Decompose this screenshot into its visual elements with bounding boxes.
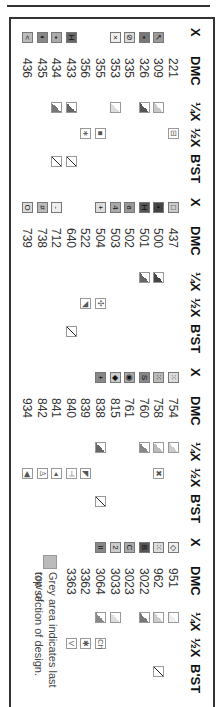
dmc-number: 934 bbox=[20, 398, 33, 418]
dmc-number: 815 bbox=[108, 398, 121, 418]
half-stitch-symbol-icon: ✱ bbox=[80, 638, 91, 649]
half-stitch-symbol-icon: ∗ bbox=[80, 128, 91, 139]
header-quarter: ¼X bbox=[188, 272, 203, 292]
dmc-number: 3023 bbox=[122, 568, 135, 595]
dmc-number: 3033 bbox=[108, 568, 121, 595]
grey-area-swatch bbox=[43, 555, 57, 569]
key-row: ⁙962 bbox=[150, 530, 164, 700]
full-stitch-symbol-icon: # bbox=[37, 202, 48, 213]
dmc-number: 435 bbox=[35, 58, 48, 78]
quarter-stitch-icon bbox=[139, 442, 150, 453]
dmc-number: 841 bbox=[49, 398, 62, 418]
header-quarter: ¼X bbox=[188, 442, 203, 462]
header-x: X bbox=[188, 368, 203, 377]
full-stitch-symbol-icon: □ bbox=[168, 202, 179, 213]
full-stitch-symbol-icon: + bbox=[95, 372, 106, 383]
quarter-stitch-icon bbox=[139, 612, 150, 623]
dmc-number: 3022 bbox=[137, 568, 150, 595]
dmc-number: 839 bbox=[78, 398, 91, 418]
quarter-stitch-icon bbox=[168, 612, 179, 623]
full-stitch-symbol-icon: < bbox=[22, 32, 33, 43]
key-row: II3064Ch bbox=[92, 530, 106, 700]
dmc-number: 951 bbox=[166, 568, 179, 588]
dmc-number: 434 bbox=[49, 58, 62, 78]
header-half: ½X bbox=[188, 468, 203, 488]
quarter-stitch-icon bbox=[51, 102, 62, 113]
key-row: 839◤ bbox=[77, 360, 91, 530]
dmc-number: 739 bbox=[20, 228, 33, 248]
full-stitch-symbol-icon: ◉ bbox=[124, 372, 135, 383]
full-stitch-symbol-icon: ⁙ bbox=[153, 372, 164, 383]
full-stitch-symbol-icon: II bbox=[95, 542, 106, 553]
full-stitch-symbol-icon: ↖ bbox=[153, 32, 164, 43]
header-bst: B'ST bbox=[188, 664, 203, 693]
dmc-number: 840 bbox=[64, 398, 77, 418]
header-dmc: DMC bbox=[188, 566, 203, 596]
full-stitch-symbol-icon: 4 bbox=[110, 202, 121, 213]
quarter-stitch-icon bbox=[110, 612, 121, 623]
half-stitch-symbol-icon: ⊣ bbox=[66, 468, 77, 479]
key-row: ◆815 bbox=[107, 360, 121, 530]
header-bst: B'ST bbox=[188, 324, 203, 353]
key-row: ◉761 bbox=[121, 360, 135, 530]
half-stitch-symbol-icon: ✣ bbox=[95, 298, 106, 309]
header-quarter: ¼X bbox=[188, 102, 203, 122]
dmc-number: 712 bbox=[49, 228, 62, 248]
full-stitch-symbol-icon: ɞ bbox=[124, 202, 135, 213]
dmc-number: 436 bbox=[20, 58, 33, 78]
dmc-number: 640 bbox=[64, 228, 77, 248]
half-stitch-symbol-icon: ◥ bbox=[80, 298, 91, 309]
dmc-number: 842 bbox=[35, 398, 48, 418]
full-stitch-symbol-icon: C bbox=[124, 542, 135, 553]
full-stitch-symbol-icon: • bbox=[51, 32, 62, 43]
dmc-number: 500 bbox=[151, 228, 164, 248]
key-row: B3022 bbox=[136, 530, 150, 700]
dmc-number: 501 bbox=[137, 228, 150, 248]
backstitch-icon bbox=[51, 156, 62, 167]
dmc-number: 326 bbox=[137, 58, 150, 78]
quarter-stitch-icon bbox=[153, 442, 164, 453]
key-row: S760 bbox=[136, 360, 150, 530]
key-row: ⁙758✖ bbox=[150, 360, 164, 530]
full-stitch-symbol-icon: H bbox=[139, 202, 150, 213]
separator-line bbox=[7, 5, 210, 7]
key-row: #738 bbox=[34, 190, 48, 360]
quarter-stitch-icon bbox=[66, 102, 77, 113]
half-stitch-symbol-icon: Ch bbox=[95, 638, 106, 649]
dmc-number: 761 bbox=[122, 398, 135, 418]
key-row: 640 bbox=[63, 190, 77, 360]
key-row: +504✣ bbox=[92, 190, 106, 360]
dmc-number: 838 bbox=[93, 398, 106, 418]
key-group-2: XDMC¼X½XB'ST□437▪500H501ɞ5024503+504✣522… bbox=[11, 190, 217, 360]
dmc-number: 355 bbox=[93, 58, 106, 78]
key-row: 356∗ bbox=[77, 20, 91, 190]
key-row: 842♙ bbox=[34, 360, 48, 530]
header-x: X bbox=[188, 538, 203, 547]
dmc-number: 335 bbox=[122, 58, 135, 78]
full-stitch-symbol-icon: O bbox=[22, 202, 33, 213]
dmc-number: 504 bbox=[93, 228, 106, 248]
dmc-number: 433 bbox=[64, 58, 77, 78]
key-row: H433 bbox=[63, 20, 77, 190]
dmc-number: 962 bbox=[151, 568, 164, 588]
full-stitch-symbol-icon: B bbox=[139, 542, 150, 553]
dmc-number: 738 bbox=[35, 228, 48, 248]
key-row: 355■ bbox=[92, 20, 106, 190]
key-row: O739 bbox=[19, 190, 33, 360]
quarter-stitch-icon bbox=[153, 102, 164, 113]
key-row: ◐435 bbox=[34, 20, 48, 190]
dmc-number: 3362 bbox=[78, 568, 91, 595]
key-row: ⁙754 bbox=[165, 360, 179, 530]
header-dmc: DMC bbox=[188, 56, 203, 86]
header-x: X bbox=[188, 28, 203, 37]
key-row: +838 bbox=[92, 360, 106, 530]
key-row: C3023 bbox=[121, 530, 135, 700]
half-stitch-symbol-icon: ◀ bbox=[22, 468, 33, 479]
dmc-number: 353 bbox=[108, 58, 121, 78]
key-row: ×353 bbox=[107, 20, 121, 190]
key-row: •326 bbox=[136, 20, 150, 190]
full-stitch-symbol-icon: ◐ bbox=[37, 32, 48, 43]
backstitch-icon bbox=[66, 326, 77, 337]
key-row: 934◀ bbox=[19, 360, 33, 530]
note-line-2: top section of design. bbox=[32, 572, 45, 676]
